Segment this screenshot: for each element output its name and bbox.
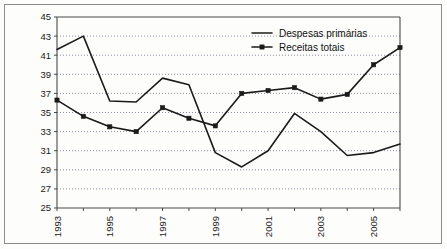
data-point — [319, 97, 323, 101]
x-tick-label-1999: 1999 — [210, 216, 221, 237]
y-tick-label-33: 33 — [40, 126, 51, 137]
series-line-1 — [57, 36, 400, 167]
data-point — [160, 106, 164, 110]
y-tick-label-39: 39 — [40, 69, 51, 80]
x-tick-label-1993: 1993 — [52, 216, 63, 237]
series-2 — [55, 45, 402, 133]
y-axis-ticks: 2527293133353739414345 — [40, 11, 57, 213]
y-tick-label-41: 41 — [40, 50, 51, 61]
series-1 — [57, 36, 400, 167]
y-tick-label-29: 29 — [40, 164, 51, 175]
chart-figure: 2527293133353739414345199319951997199920… — [0, 0, 447, 249]
y-tick-label-27: 27 — [40, 183, 51, 194]
line-chart: 2527293133353739414345199319951997199920… — [0, 0, 447, 249]
gridlines — [57, 36, 400, 189]
chart-legend: Despesas primáriasReceitas totais — [252, 28, 367, 53]
x-tick-label-2001: 2001 — [263, 216, 274, 237]
legend-swatch-marker-2 — [260, 45, 264, 49]
y-tick-label-35: 35 — [40, 107, 51, 118]
x-tick-label-2005: 2005 — [368, 216, 379, 237]
data-point — [240, 91, 244, 95]
data-point — [266, 88, 270, 92]
data-point — [292, 86, 296, 90]
data-point — [134, 130, 138, 134]
data-point — [81, 114, 85, 118]
legend-label-1: Despesas primárias — [279, 28, 367, 39]
x-tick-label-1995: 1995 — [104, 216, 115, 237]
y-tick-label-43: 43 — [40, 31, 51, 42]
data-point — [187, 116, 191, 120]
data-point — [398, 45, 402, 49]
data-point — [213, 124, 217, 128]
data-point — [345, 92, 349, 96]
series-line-2 — [57, 48, 400, 132]
x-tick-label-2003: 2003 — [315, 216, 326, 237]
y-tick-label-31: 31 — [40, 145, 51, 156]
y-tick-label-37: 37 — [40, 88, 51, 99]
data-point — [55, 98, 59, 102]
data-point — [108, 125, 112, 129]
legend-label-2: Receitas totais — [279, 42, 345, 53]
y-tick-label-45: 45 — [40, 11, 51, 22]
data-point — [372, 63, 376, 67]
x-axis-ticks: 1993199519971999200120032005 — [52, 208, 400, 237]
x-tick-label-1997: 1997 — [157, 216, 168, 237]
y-tick-label-25: 25 — [40, 202, 51, 213]
